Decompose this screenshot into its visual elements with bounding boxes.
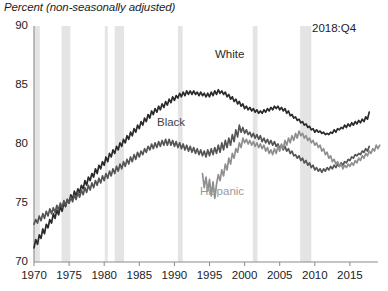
chart-plot-area <box>0 0 388 291</box>
x-axis-tick-1990: 1990 <box>154 269 194 281</box>
annotation-latest-quarter: 2018:Q4 <box>312 22 356 34</box>
y-axis-tick-70: 70 <box>4 255 28 267</box>
x-axis-tick-1970: 1970 <box>14 269 54 281</box>
x-axis-tick-2005: 2005 <box>260 269 300 281</box>
chart-axes <box>34 26 378 266</box>
y-axis-tick-80: 80 <box>4 137 28 149</box>
x-axis-tick-2000: 2000 <box>225 269 265 281</box>
x-axis-tick-2015: 2015 <box>330 269 370 281</box>
series-label-white: White <box>215 48 244 60</box>
y-axis-tick-75: 75 <box>4 196 28 208</box>
chart-container: Percent (non-seasonally adjusted) 90 85 … <box>0 0 388 291</box>
x-axis-tick-1980: 1980 <box>84 269 124 281</box>
series-label-black: Black <box>157 116 185 128</box>
x-axis-tick-1975: 1975 <box>49 269 89 281</box>
chart-series-lines <box>34 90 380 248</box>
x-axis-tick-1985: 1985 <box>119 269 159 281</box>
y-axis-tick-90: 90 <box>4 19 28 31</box>
x-axis-tick-1995: 1995 <box>190 269 230 281</box>
x-axis-tick-2010: 2010 <box>295 269 335 281</box>
series-label-hispanic: Hispanic <box>200 185 244 197</box>
y-axis-tick-85: 85 <box>4 78 28 90</box>
